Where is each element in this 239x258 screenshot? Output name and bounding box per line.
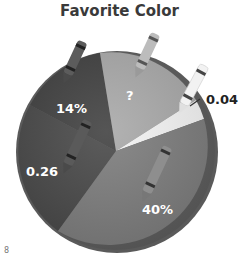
label-026: 0.26: [26, 164, 58, 179]
label-14pct: 14%: [56, 101, 87, 116]
pie-shading: [17, 52, 215, 250]
label-unknown: ?: [126, 88, 134, 103]
corner-mark: 8: [4, 246, 9, 255]
label-40pct: 40%: [142, 202, 173, 217]
pie-chart: 14% ? 0.04 0.26 40%: [0, 0, 239, 258]
label-004: 0.04: [206, 92, 238, 107]
